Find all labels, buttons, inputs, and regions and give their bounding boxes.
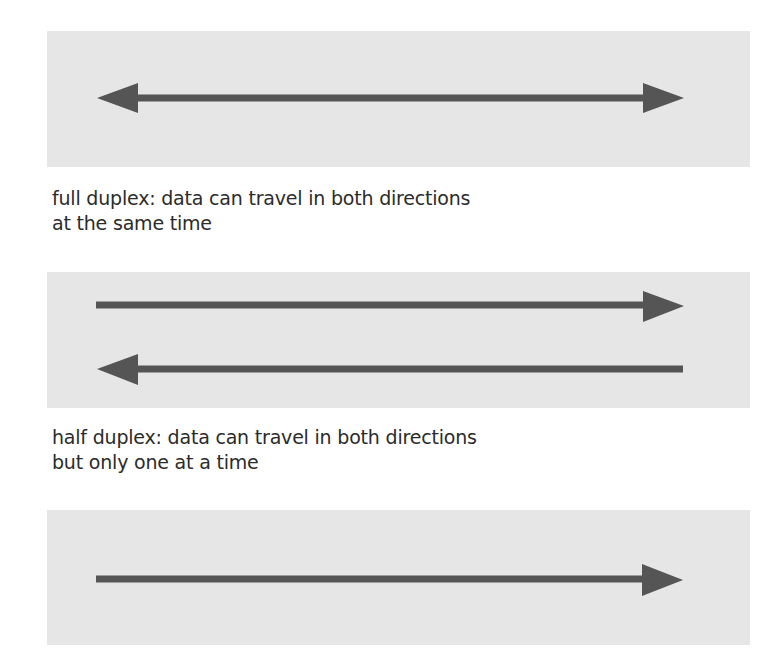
- right-arrow-icon: [96, 291, 684, 322]
- left-arrow-icon: [97, 354, 683, 385]
- double-headed-arrow-icon: [47, 31, 750, 167]
- full-duplex-caption: full duplex: data can travel in both dir…: [52, 186, 470, 236]
- half-duplex-caption: half duplex: data can travel in both dir…: [52, 425, 477, 475]
- simplex-panel: [47, 510, 750, 645]
- right-arrow-icon: [47, 510, 750, 645]
- half-duplex-caption-line-2: but only one at a time: [52, 450, 477, 475]
- half-duplex-caption-line-1: half duplex: data can travel in both dir…: [52, 425, 477, 450]
- half-duplex-panel: [47, 272, 750, 408]
- full-duplex-panel: [47, 31, 750, 167]
- opposite-arrows-icon: [47, 272, 750, 408]
- full-duplex-caption-line-2: at the same time: [52, 211, 470, 236]
- full-duplex-caption-line-1: full duplex: data can travel in both dir…: [52, 186, 470, 211]
